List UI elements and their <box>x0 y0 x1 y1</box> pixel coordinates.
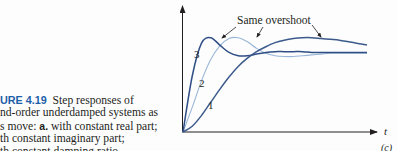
curve-3 <box>183 38 367 132</box>
response-curves <box>183 37 367 132</box>
curve-label-1: 1 <box>208 99 214 111</box>
step-response-chart: t (c) Same overshoot 3 2 1 <box>0 0 398 151</box>
annotation-arrow-3 <box>222 27 236 38</box>
annotation-arrow-2 <box>257 27 263 37</box>
curve-label-2: 2 <box>199 77 205 89</box>
annotation-arrow-1 <box>312 25 321 37</box>
curve-label-3: 3 <box>194 48 200 60</box>
overshoot-annotation: Same overshoot <box>237 14 312 26</box>
panel-label: (c) <box>381 142 393 151</box>
x-axis-label: t <box>384 125 388 137</box>
